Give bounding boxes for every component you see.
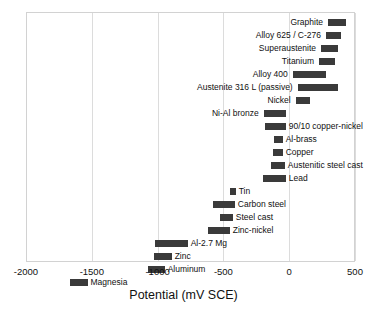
x-tick-label: -1000 — [145, 266, 169, 277]
bar — [273, 149, 283, 156]
bar-label: Titanium — [282, 55, 314, 68]
bar-row: Graphite — [27, 16, 354, 29]
bar — [265, 123, 286, 130]
bar-label: Alloy 625 / C-276 — [256, 29, 321, 42]
bar-row: Ni-Al bronze — [27, 107, 354, 120]
bar-label: Superaustenite — [259, 42, 316, 55]
bar-row: Nickel — [27, 94, 354, 107]
bar-row: Al-2.7 Mg — [27, 237, 354, 250]
bar — [220, 214, 233, 221]
bar — [208, 227, 230, 234]
bar-label: Tin — [239, 185, 251, 198]
bar — [321, 45, 338, 52]
bar-row: Austenitic steel cast — [27, 159, 354, 172]
bar-row: Alloy 400 — [27, 68, 354, 81]
bar-row: Al-brass — [27, 133, 354, 146]
bar-label: Carbon steel — [238, 198, 286, 211]
bar-label: Nickel — [268, 94, 291, 107]
bar-label: 90/10 copper-nickel — [289, 120, 363, 133]
bar-row: Titanium — [27, 55, 354, 68]
bar-label: Al-brass — [286, 133, 317, 146]
bar — [271, 162, 285, 169]
bar-label: Austenite 316 L (passive) — [197, 81, 293, 94]
bar-label: Lead — [289, 172, 308, 185]
bar-row: Steel cast — [27, 211, 354, 224]
plot-area: GraphiteAlloy 625 / C-276SuperausteniteT… — [26, 12, 355, 262]
bar — [328, 19, 346, 26]
bar-row: 90/10 copper-nickel — [27, 120, 354, 133]
x-axis-title: Potential (mV SCE) — [0, 288, 367, 302]
bar — [274, 136, 283, 143]
bar — [298, 84, 338, 91]
bar-row: Lead — [27, 172, 354, 185]
bar-label: Austenitic steel cast — [288, 159, 363, 172]
bar — [213, 201, 235, 208]
bar-row: Zinc-nickel — [27, 224, 354, 237]
bar-row: Superaustenite — [27, 42, 354, 55]
bar-row: Carbon steel — [27, 198, 354, 211]
bar-label: Copper — [286, 146, 314, 159]
x-tick-label: 0 — [287, 266, 292, 277]
bar-row: Austenite 316 L (passive) — [27, 81, 354, 94]
bar — [155, 240, 188, 247]
galvanic-series-chart: GraphiteAlloy 625 / C-276SuperausteniteT… — [0, 0, 367, 316]
bar-label: Ni-Al bronze — [212, 107, 259, 120]
bar — [326, 32, 341, 39]
bar-row: Tin — [27, 185, 354, 198]
bar — [293, 71, 326, 78]
bar — [296, 97, 310, 104]
bar — [319, 58, 335, 65]
bar — [154, 253, 172, 260]
bar-label: Steel cast — [236, 211, 273, 224]
x-tick-label: -2000 — [14, 266, 38, 277]
gridline-500 — [355, 13, 356, 261]
x-tick-label: 500 — [347, 266, 363, 277]
bar-row: Alloy 625 / C-276 — [27, 29, 354, 42]
bar-label: Al-2.7 Mg — [191, 237, 227, 250]
bar — [230, 188, 236, 195]
x-axis: -2000-1500-1000-5000500 — [26, 262, 355, 282]
bar — [263, 175, 286, 182]
x-tick-label: -1500 — [80, 266, 104, 277]
x-tick-label: -500 — [214, 266, 233, 277]
bar — [264, 110, 286, 117]
bar-label: Zinc-nickel — [233, 224, 274, 237]
bar-label: Graphite — [290, 16, 323, 29]
bar-label: Alloy 400 — [253, 68, 288, 81]
bar-row: Copper — [27, 146, 354, 159]
